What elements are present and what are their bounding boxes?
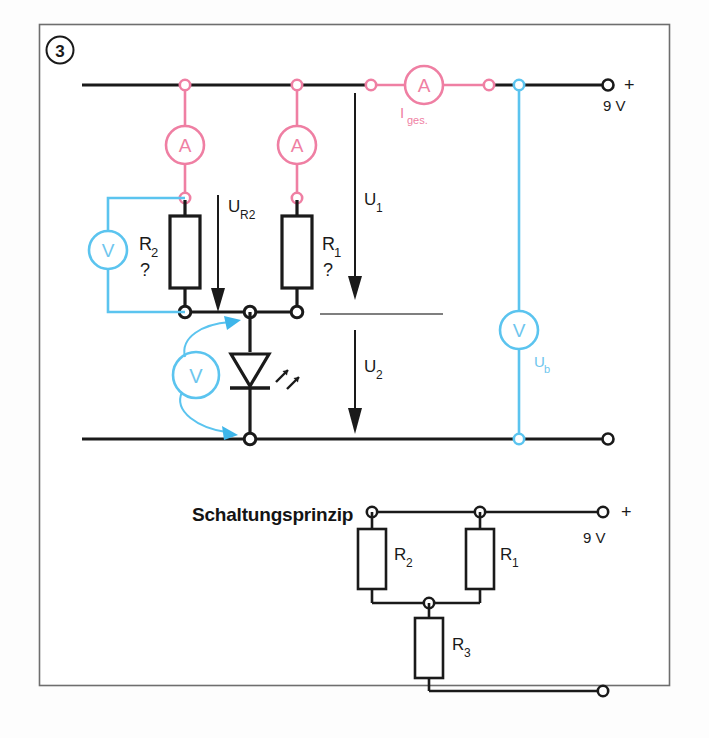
resistor-r1-value: ? — [323, 260, 333, 280]
voltmeter-supply-symbol: V — [513, 320, 526, 341]
node-ammeter-total-right — [484, 80, 494, 90]
p-resistor-r2-body — [358, 529, 386, 589]
supply-polarity-main: + — [624, 75, 635, 95]
terminal-plus-main[interactable] — [603, 80, 614, 91]
node-ammeter-total-left — [366, 80, 376, 90]
p-supply-polarity: + — [621, 502, 632, 522]
circuit-diagram: 3 A I ges. + 9 V A A — [0, 0, 709, 738]
arrow-ur2-label-sub: R2 — [240, 208, 256, 222]
ammeter-total-symbol: A — [418, 75, 431, 96]
resistor-r1-label-sub: 1 — [334, 245, 341, 260]
ammeter-total-label-sub: ges. — [407, 114, 428, 126]
p-resistor-r3-label: R — [452, 635, 464, 654]
p-resistor-r2-label-sub: 2 — [406, 556, 413, 570]
ammeter-r1-symbol: A — [291, 135, 304, 156]
node-r1-top-rail — [292, 80, 302, 90]
node-supply-bottom — [514, 434, 524, 444]
p-terminal-plus[interactable] — [598, 507, 608, 517]
terminal-minus-main[interactable] — [603, 434, 614, 445]
node-r1-lower — [291, 306, 303, 318]
node-r2-top-rail — [180, 80, 190, 90]
p-resistor-r1-label-sub: 1 — [512, 556, 519, 570]
arrow-u1-label-sub: 1 — [376, 201, 383, 215]
resistor-r2-label-sub: 2 — [151, 245, 158, 260]
figure-page: 3 A I ges. + 9 V A A — [0, 0, 709, 738]
arrow-u2-label-sub: 2 — [376, 368, 383, 382]
voltmeter-r2-symbol: V — [102, 240, 115, 261]
figure-number-text: 3 — [55, 42, 64, 61]
resistor-r1-body — [282, 216, 312, 288]
resistor-r2-body — [170, 216, 200, 288]
arrow-u1-label: U — [364, 190, 376, 209]
p-supply-voltage: 9 V — [583, 529, 606, 546]
ammeter-total-label: I — [400, 104, 404, 121]
p-terminal-minus[interactable] — [598, 686, 608, 696]
p-resistor-r3-label-sub: 3 — [464, 646, 471, 660]
voltmeter-led-symbol: V — [189, 365, 203, 387]
p-resistor-r3-body — [415, 618, 443, 678]
arrow-ur2-label: U — [228, 197, 240, 216]
ammeter-r2-symbol: A — [179, 135, 192, 156]
supply-voltage-main: 9 V — [603, 97, 626, 114]
principle-caption: Schaltungsprinzip — [192, 504, 353, 525]
resistor-r2-value: ? — [140, 260, 150, 280]
p-resistor-r1-label: R — [500, 545, 512, 564]
voltmeter-supply-label-sub: b — [544, 363, 550, 375]
arrow-u2-label: U — [364, 357, 376, 376]
p-resistor-r1-body — [466, 529, 494, 589]
node-led-bottom — [244, 433, 256, 445]
node-supply-top — [514, 80, 524, 90]
p-resistor-r2-label: R — [394, 545, 406, 564]
